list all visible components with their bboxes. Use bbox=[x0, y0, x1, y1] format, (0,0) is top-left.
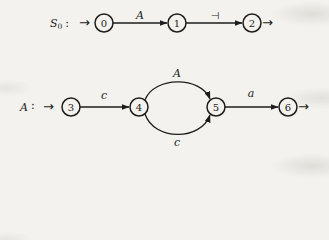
diagram-a-title: A: bbox=[19, 99, 35, 114]
transition-label-c-lower: c bbox=[174, 136, 180, 149]
transition-label-c: c bbox=[101, 89, 107, 102]
start-arrow-icon: → bbox=[79, 15, 90, 30]
state-label-2: 2 bbox=[249, 18, 255, 29]
state-label-3: 3 bbox=[68, 102, 74, 113]
state-label-4: 4 bbox=[136, 102, 142, 113]
transition-label-endmarker: ⊣ bbox=[211, 10, 220, 21]
diagram-a: A: → 3 c 4 A c 5 a 6 → bbox=[19, 67, 309, 149]
transition-label-A: A bbox=[135, 9, 144, 22]
state-label-0: 0 bbox=[101, 18, 107, 29]
transition-label-a: a bbox=[248, 87, 255, 100]
end-arrow-icon: → bbox=[262, 15, 273, 30]
diagram-s0: S0: → 0 A 1 ⊣ 2 → bbox=[50, 9, 273, 32]
diagram-s0-title: S0: bbox=[50, 17, 69, 31]
automata-figure: S0: → 0 A 1 ⊣ 2 → A: → 3 c 4 A c 5 a 6 bbox=[0, 0, 329, 152]
transition-4-to-5-lower bbox=[145, 114, 210, 134]
state-label-1: 1 bbox=[174, 18, 180, 29]
transition-4-to-5-upper bbox=[145, 82, 210, 100]
end-arrow-icon: → bbox=[298, 99, 309, 114]
transition-label-A-upper: A bbox=[172, 67, 181, 80]
state-label-5: 5 bbox=[213, 102, 219, 113]
state-label-6: 6 bbox=[285, 102, 291, 113]
start-arrow-icon: → bbox=[43, 99, 54, 114]
scanned-figure-page: { "figure": { "type": "state-transition-… bbox=[0, 0, 329, 152]
